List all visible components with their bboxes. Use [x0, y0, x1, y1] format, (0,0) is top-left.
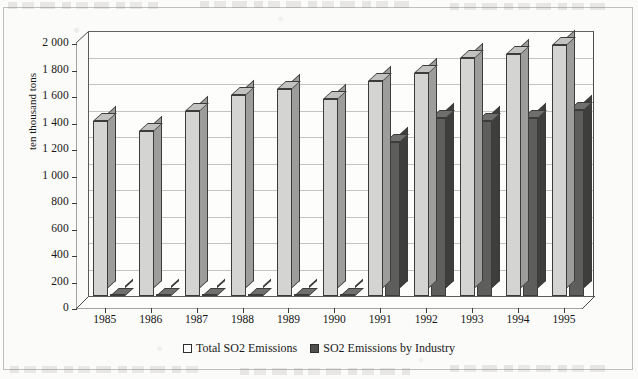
x-tick-label: 1985 — [85, 313, 125, 325]
chart-legend: Total SO2 Emissions SO2 Emissions by Ind… — [0, 341, 638, 356]
y-tick-mark — [72, 71, 77, 72]
bar-1991-total — [368, 81, 383, 296]
y-tick-mark — [72, 203, 77, 204]
gridline — [89, 31, 594, 32]
y-tick-label: 600 — [0, 222, 69, 234]
bar-side-face — [475, 43, 483, 288]
x-tick-label: 1993 — [452, 313, 492, 325]
y-tick-mark — [72, 124, 77, 125]
y-tick-mark — [72, 256, 77, 257]
bar-front-face — [506, 54, 521, 296]
bar-front-face — [185, 111, 200, 296]
legend-label-total: Total SO2 Emissions — [196, 341, 297, 356]
bar-1988-industry — [248, 296, 263, 297]
bar-1988-total — [231, 95, 246, 296]
bar-front-face — [231, 95, 246, 296]
y-tick-mark — [72, 283, 77, 284]
bar-1987-industry — [202, 296, 217, 297]
y-tick-mark — [72, 177, 77, 178]
y-tick-label: 800 — [0, 195, 69, 207]
bar-side-face — [400, 126, 408, 288]
bar-1986-total — [139, 131, 154, 296]
bar-1990-industry — [340, 296, 355, 297]
legend-item-industry: SO2 Emissions by Industry — [310, 341, 455, 356]
x-tick-label: 1994 — [498, 313, 538, 325]
y-tick-mark — [72, 309, 77, 310]
y-tick-label: 1 000 — [0, 169, 69, 181]
bar-side-face — [292, 74, 300, 288]
bar-front-face — [139, 131, 154, 296]
x-tick-label: 1987 — [177, 313, 217, 325]
dark-square-icon — [310, 344, 319, 353]
bar-side-face — [429, 58, 437, 288]
bar-1990-total — [323, 99, 338, 296]
y-tick-mark — [72, 230, 77, 231]
bar-side-face — [492, 106, 500, 288]
y-tick-label: 2 000 — [0, 36, 69, 48]
chart-plot-area — [76, 31, 594, 309]
bar-1985-industry — [110, 296, 125, 297]
legend-item-total: Total SO2 Emissions — [183, 341, 297, 356]
x-tick-label: 1986 — [131, 313, 171, 325]
bar-side-face — [154, 116, 162, 288]
bar-1992-total — [414, 73, 429, 296]
bar-front-face — [414, 73, 429, 296]
bar-side-face — [338, 84, 346, 288]
bar-front-face — [552, 45, 567, 296]
y-tick-label: 0 — [0, 301, 69, 313]
bar-1993-total — [460, 58, 475, 296]
bar-1986-industry — [156, 296, 171, 297]
bar-side-face — [200, 96, 208, 288]
y-axis-title: ten thousand tons — [26, 73, 38, 150]
x-tick-label: 1988 — [223, 313, 263, 325]
bar-side-face — [246, 80, 254, 288]
bar-side-face — [446, 103, 454, 288]
y-tick-label: 200 — [0, 275, 69, 287]
bar-front-face — [93, 121, 108, 296]
bar-front-face — [110, 294, 125, 296]
bar-front-face — [323, 99, 338, 296]
y-tick-label: 400 — [0, 248, 69, 260]
legend-label-industry: SO2 Emissions by Industry — [323, 341, 455, 356]
x-tick-label: 1991 — [360, 313, 400, 325]
y-tick-mark — [72, 150, 77, 151]
x-tick-label: 1995 — [544, 313, 584, 325]
bar-side-face — [584, 95, 592, 288]
bar-front-face — [156, 294, 171, 296]
bar-1995-total — [552, 45, 567, 296]
bar-1994-total — [506, 54, 521, 296]
bar-front-face — [368, 81, 383, 296]
x-tick-label: 1990 — [314, 313, 354, 325]
bar-side-face — [521, 39, 529, 288]
bar-front-face — [202, 294, 217, 296]
bar-front-face — [460, 58, 475, 296]
bar-side-face — [108, 106, 116, 288]
y-tick-mark — [72, 44, 77, 45]
bar-front-face — [294, 294, 309, 296]
bar-1987-total — [185, 111, 200, 296]
light-square-icon — [183, 344, 192, 353]
bar-front-face — [248, 294, 263, 296]
bar-front-face — [277, 89, 292, 296]
bar-1989-industry — [294, 296, 309, 297]
bar-side-face — [567, 30, 575, 288]
bar-1989-total — [277, 89, 292, 296]
bar-1985-total — [93, 121, 108, 296]
bar-front-face — [340, 294, 355, 296]
bar-side-face — [538, 103, 546, 288]
x-tick-label: 1989 — [268, 313, 308, 325]
y-tick-mark — [72, 97, 77, 98]
bar-side-face — [383, 66, 391, 288]
x-tick-label: 1992 — [406, 313, 446, 325]
